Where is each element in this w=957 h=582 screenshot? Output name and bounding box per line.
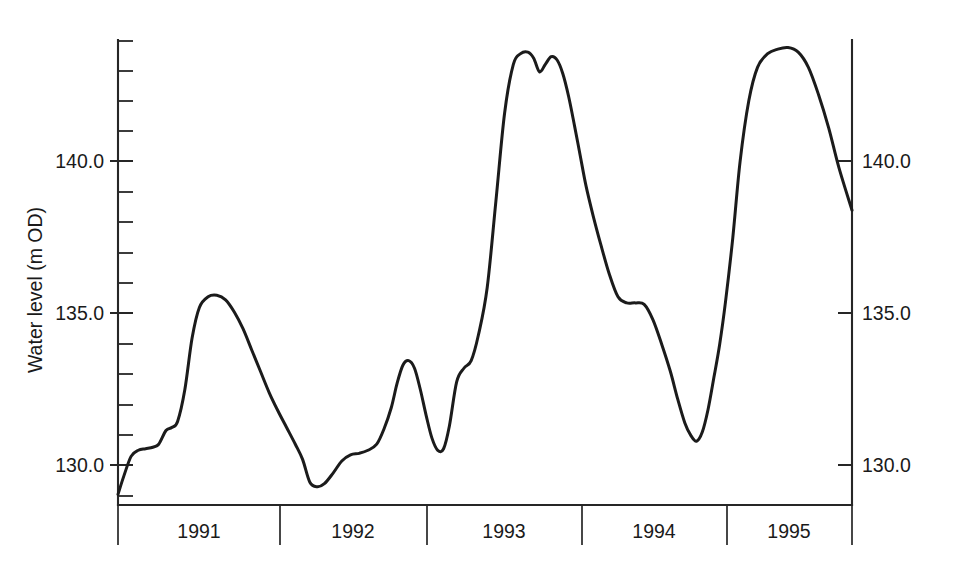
chart-container: 140.0 135.0 130.0 Water level (m OD) 140…: [0, 0, 957, 582]
x-axis-year-label-1992: 1992: [331, 520, 374, 542]
y-axis-title: Water level (m OD): [24, 207, 46, 373]
right-tick-label-140: 140.0: [862, 150, 911, 172]
right-tick-label-135: 135.0: [862, 302, 911, 324]
x-axis-year-label-1993: 1993: [482, 520, 525, 542]
x-axis-year-label-1991: 1991: [177, 520, 220, 542]
x-axis-year-label-1995: 1995: [767, 520, 811, 542]
x-axis-year-label-1994: 1994: [632, 520, 676, 542]
water-level-series-line: [118, 47, 852, 494]
right-tick-label-130: 130.0: [862, 454, 911, 476]
water-level-hydrograph-chart: 140.0 135.0 130.0 Water level (m OD) 140…: [0, 0, 957, 582]
left-axis-major-ticks: [110, 161, 133, 465]
left-tick-label-140: 140.0: [55, 150, 104, 172]
left-tick-label-130: 130.0: [55, 454, 104, 476]
left-axis-minor-ticks: [118, 41, 133, 496]
left-tick-label-135: 135.0: [55, 302, 104, 324]
